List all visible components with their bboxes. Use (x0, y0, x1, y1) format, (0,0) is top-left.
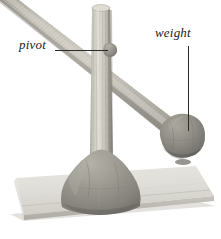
figure-photo-lever-model: pivot weight (0, 0, 221, 239)
label-weight: weight (155, 26, 191, 39)
vertical-post (90, 5, 113, 160)
label-pivot: pivot (19, 38, 46, 51)
weight-leader-line (188, 46, 189, 131)
pivot-leader-line (55, 50, 108, 51)
